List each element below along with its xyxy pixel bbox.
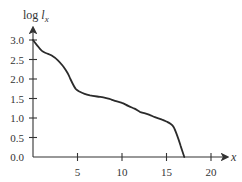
y-tick-label: 1.5 [10,93,24,105]
y-tick-label: 0.0 [10,151,24,163]
survivorship-chart: 0.00.51.01.52.02.53.0 5101520 log lx x [0,0,242,182]
y-tick-label: 2.0 [10,73,24,85]
x-tick-label: 15 [161,166,173,178]
x-tick-label: 10 [117,166,129,178]
y-axis-label: log lx [23,8,49,24]
y-tick-label: 3.0 [10,34,24,46]
data-line [33,40,184,157]
y-tick-label: 1.0 [10,112,24,124]
x-axis-label: x [230,150,237,164]
y-tick-label: 0.5 [10,132,24,144]
y-tick-label: 2.5 [10,54,24,66]
x-tick-label: 5 [75,166,81,178]
x-tick-label: 20 [206,166,218,178]
